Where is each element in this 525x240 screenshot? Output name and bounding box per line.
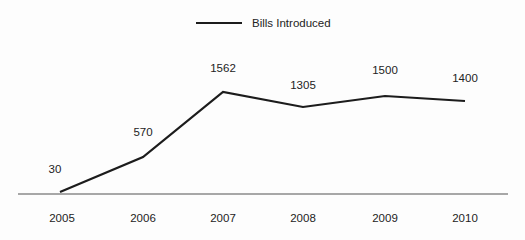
value-label-2007: 1562 — [210, 62, 236, 74]
plot-area — [0, 0, 525, 240]
x-axis-tick-2005: 2005 — [49, 212, 75, 224]
value-label-2008: 1305 — [290, 79, 316, 91]
x-axis-tick-2006: 2006 — [130, 212, 156, 224]
value-label-2010: 1400 — [452, 72, 478, 84]
x-axis-tick-2010: 2010 — [452, 212, 478, 224]
line-chart: Bills Introduced 30 570 1562 1305 1500 1… — [0, 0, 525, 240]
x-axis-tick-2009: 2009 — [372, 212, 398, 224]
value-label-2005: 30 — [49, 163, 62, 175]
value-label-2006: 570 — [133, 126, 152, 138]
x-axis-tick-2007: 2007 — [210, 212, 236, 224]
value-label-2009: 1500 — [372, 64, 398, 76]
data-series-line-bills-introduced — [60, 92, 465, 192]
x-axis-tick-2008: 2008 — [290, 212, 316, 224]
